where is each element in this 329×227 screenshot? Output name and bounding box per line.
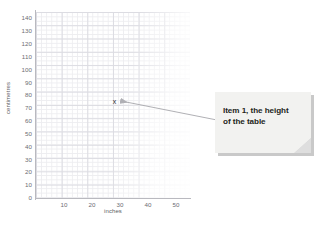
chart-canvas: 0102030405060708090100110120130140 10203… — [0, 0, 329, 227]
y-axis-title: centimetres — [5, 68, 11, 128]
x-tick-label: 10 — [52, 201, 76, 208]
callout-text-line-1: Item 1, the height — [223, 106, 289, 115]
x-tick-label: 20 — [80, 201, 104, 208]
x-axis-title: inches — [78, 208, 148, 214]
x-tick-label: 30 — [108, 201, 132, 208]
x-tick-label: 40 — [136, 201, 160, 208]
callout-text: Item 1, the height of the table — [223, 105, 305, 128]
callout-box: Item 1, the height of the table — [215, 92, 311, 153]
callout-text-line-2: of the table — [223, 117, 266, 126]
x-tick-label: 50 — [164, 201, 188, 208]
data-point-marker: x — [110, 97, 119, 106]
